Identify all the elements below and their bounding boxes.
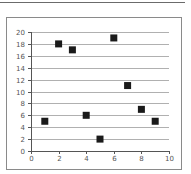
square-marker [124,82,131,89]
y-tick-label: 8 [21,100,25,108]
square-marker [83,112,90,119]
y-axis-ticks: 02468101214161820 [16,29,31,156]
x-axis-ticks: 0246810 [29,151,174,163]
square-marker [152,118,159,125]
square-marker [97,136,104,143]
square-marker [69,46,76,53]
x-tick-label: 10 [165,155,174,163]
y-tick-label: 16 [16,53,25,61]
x-tick-label: 6 [112,155,117,163]
square-marker [55,40,62,47]
axes [31,32,169,152]
y-tick-label: 4 [21,124,26,132]
x-tick-label: 8 [139,155,143,163]
gridlines [31,33,169,140]
y-tick-label: 6 [21,112,26,120]
y-tick-label: 20 [16,29,25,37]
y-tick-label: 0 [21,148,25,156]
x-tick-label: 0 [29,155,33,163]
square-marker [110,34,117,41]
square-marker [41,118,48,125]
y-tick-label: 14 [16,65,25,73]
data-points [41,34,158,142]
y-tick-label: 10 [16,89,25,97]
y-tick-label: 2 [21,136,25,144]
x-tick-label: 4 [84,155,89,163]
square-marker [138,106,145,113]
y-tick-label: 12 [16,77,25,85]
scatter-chart: 02468101214161820 0246810 [0,0,191,174]
x-tick-label: 2 [57,155,61,163]
y-tick-label: 18 [16,41,25,49]
